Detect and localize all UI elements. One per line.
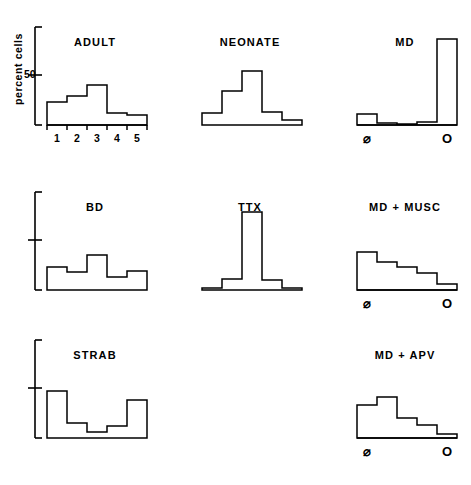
axis-symbol-deprived: ⌀ [357, 131, 377, 146]
plot-area [33, 333, 163, 442]
axis-symbol-deprived: ⌀ [357, 444, 377, 459]
x-tick-label: 5 [127, 132, 147, 144]
plot-area [343, 333, 471, 442]
x-tick-label: 4 [107, 132, 127, 144]
bar-group [202, 71, 302, 125]
x-axis-tick-labels: 12345 [47, 132, 147, 144]
axis-symbol-open: O [437, 131, 457, 146]
plot-area [188, 185, 318, 294]
x-tick-label: 1 [47, 132, 67, 144]
bar-group [47, 391, 147, 438]
plot-area [33, 185, 163, 294]
ocular-dominance-figure: percent cells50ADULT12345NEONATEMD⌀OBDTT… [0, 0, 471, 485]
plot-area [343, 185, 471, 294]
panel-bd: BD [45, 185, 145, 330]
bar-group [47, 255, 147, 290]
plot-area [33, 20, 163, 129]
plot-area [343, 20, 471, 129]
bar-group [47, 85, 147, 125]
panel-md-musc: MD + MUSC⌀O [355, 185, 455, 330]
y-axis-label: percent cells [12, 32, 24, 106]
panel-md: MD⌀O [355, 20, 455, 165]
plot-area [188, 20, 318, 129]
bar-group [357, 39, 457, 125]
panel-strab: STRAB [45, 333, 145, 478]
x-tick-label: 3 [87, 132, 107, 144]
axis-symbol-open: O [437, 444, 457, 459]
x-tick-label: 2 [67, 132, 87, 144]
bar-group [357, 397, 457, 438]
axis-symbol-open: O [437, 296, 457, 311]
y-axis [28, 192, 42, 290]
bar-group [357, 252, 457, 290]
bar-group [202, 212, 302, 290]
panel-ttx: TTX [200, 185, 300, 330]
panel-adult: ADULT12345 [45, 20, 145, 165]
axis-symbol-deprived: ⌀ [357, 296, 377, 311]
panel-md-apv: MD + APV⌀O [355, 333, 455, 478]
y-axis [28, 340, 42, 438]
panel-neonate: NEONATE [200, 20, 300, 165]
